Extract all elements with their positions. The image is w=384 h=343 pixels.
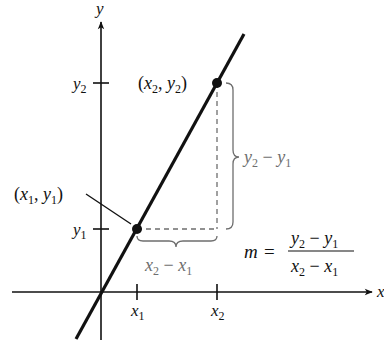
formula-lhs: m xyxy=(244,241,258,262)
formula-equals: = xyxy=(264,241,275,262)
point-1-label: (x1, y1) xyxy=(14,184,63,207)
formula-denominator: x2 − x1 xyxy=(290,256,338,279)
point-2-label: (x2, y2) xyxy=(138,73,187,96)
formula-numerator: y2 − y1 xyxy=(289,228,338,251)
slope-formula: m = y2 − y1 x2 − x1 xyxy=(244,228,354,279)
point-1 xyxy=(132,224,142,234)
tick-label-x1: x1 xyxy=(130,301,145,323)
point-1-leader xyxy=(86,194,131,224)
x-axis-label: x xyxy=(376,282,384,301)
slope-diagram: y x y2 y1 x1 x2 (x1, y1) (x2, y2) y2 − y… xyxy=(0,0,384,343)
tick-label-y1: y1 xyxy=(71,220,87,242)
y-axis-label: y xyxy=(94,0,104,18)
point-2 xyxy=(212,78,222,88)
run-brace xyxy=(137,236,217,247)
run-label: x2 − x1 xyxy=(144,255,192,278)
rise-label: y2 − y1 xyxy=(242,147,291,170)
rise-brace xyxy=(226,83,239,229)
tick-label-y2: y2 xyxy=(71,74,87,96)
tick-label-x2: x2 xyxy=(210,301,225,323)
